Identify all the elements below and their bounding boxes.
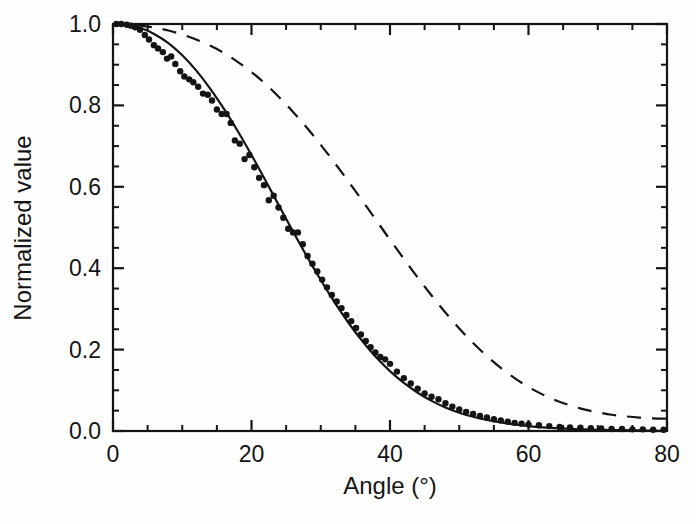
data-point bbox=[387, 361, 393, 367]
data-point bbox=[567, 424, 573, 430]
data-point bbox=[266, 197, 272, 203]
data-point bbox=[442, 400, 448, 406]
y-tick-label: 1.0 bbox=[69, 11, 101, 37]
x-tick-label: 40 bbox=[377, 441, 403, 467]
data-point bbox=[251, 164, 257, 170]
data-point bbox=[546, 423, 552, 429]
data-point bbox=[333, 298, 339, 304]
y-tick-label: 0.0 bbox=[69, 418, 101, 444]
data-point bbox=[525, 421, 531, 427]
data-point bbox=[394, 368, 400, 374]
y-tick-label: 0.8 bbox=[69, 92, 101, 118]
data-point bbox=[435, 396, 441, 402]
data-point bbox=[324, 284, 330, 290]
data-point bbox=[228, 120, 234, 126]
data-point bbox=[160, 49, 166, 55]
data-point bbox=[343, 312, 349, 318]
data-point bbox=[314, 268, 320, 274]
data-point bbox=[177, 68, 183, 74]
data-point bbox=[246, 152, 252, 158]
data-point bbox=[421, 390, 427, 396]
data-point bbox=[491, 416, 497, 422]
data-point bbox=[463, 409, 469, 415]
data-point bbox=[518, 420, 524, 426]
x-tick-label: 80 bbox=[654, 441, 680, 467]
data-point bbox=[619, 426, 625, 432]
data-point bbox=[300, 241, 306, 247]
data-point bbox=[214, 106, 220, 112]
data-point bbox=[146, 36, 152, 42]
x-axis-title: Angle (°) bbox=[343, 472, 437, 499]
data-point bbox=[205, 92, 211, 98]
data-point bbox=[304, 253, 310, 259]
data-point bbox=[348, 318, 354, 324]
x-tick-label: 60 bbox=[516, 441, 542, 467]
data-point bbox=[209, 97, 215, 103]
x-tick-label: 20 bbox=[239, 441, 265, 467]
data-point bbox=[484, 414, 490, 420]
data-point bbox=[456, 406, 462, 412]
y-tick-label: 0.6 bbox=[69, 174, 101, 200]
chart-canvas: 020406080 0.00.20.40.60.81.0 Angle (°) N… bbox=[0, 0, 696, 524]
data-point bbox=[270, 193, 276, 199]
data-point bbox=[401, 375, 407, 381]
data-point bbox=[577, 425, 583, 431]
data-point bbox=[650, 427, 656, 433]
data-point bbox=[256, 175, 262, 181]
y-tick-label: 0.4 bbox=[69, 255, 101, 281]
data-point bbox=[223, 111, 229, 117]
data-point bbox=[118, 21, 124, 27]
data-point bbox=[660, 427, 666, 433]
data-point bbox=[382, 356, 388, 362]
x-tick-labels: 020406080 bbox=[107, 441, 680, 467]
y-axis-title: Normalized value bbox=[9, 135, 36, 320]
data-point bbox=[415, 385, 421, 391]
data-point bbox=[275, 204, 281, 210]
data-point bbox=[629, 426, 635, 432]
data-point bbox=[168, 53, 174, 59]
y-tick-label: 0.2 bbox=[69, 337, 101, 363]
data-point bbox=[498, 417, 504, 423]
data-point bbox=[358, 331, 364, 337]
data-point bbox=[195, 83, 201, 89]
data-point bbox=[511, 420, 517, 426]
figure-container: 020406080 0.00.20.40.60.81.0 Angle (°) N… bbox=[0, 0, 696, 524]
data-point bbox=[237, 140, 243, 146]
data-point bbox=[556, 424, 562, 430]
data-point bbox=[261, 182, 267, 188]
data-point bbox=[367, 344, 373, 350]
data-point bbox=[428, 394, 434, 400]
data-point bbox=[608, 426, 614, 432]
data-point bbox=[329, 292, 335, 298]
data-point bbox=[309, 261, 315, 267]
y-tick-labels: 0.00.20.40.60.81.0 bbox=[69, 11, 101, 444]
data-point bbox=[477, 413, 483, 419]
data-point bbox=[319, 276, 325, 282]
data-point bbox=[408, 380, 414, 386]
data-point bbox=[280, 215, 286, 221]
data-point bbox=[598, 425, 604, 431]
data-point bbox=[449, 403, 455, 409]
data-point bbox=[372, 349, 378, 355]
data-point bbox=[338, 305, 344, 311]
data-point bbox=[137, 27, 143, 33]
data-point bbox=[295, 229, 301, 235]
data-point bbox=[363, 338, 369, 344]
data-point bbox=[536, 422, 542, 428]
data-point bbox=[190, 79, 196, 85]
data-point bbox=[470, 411, 476, 417]
data-point bbox=[505, 418, 511, 424]
data-point bbox=[588, 425, 594, 431]
data-point bbox=[640, 426, 646, 432]
data-point bbox=[172, 61, 178, 67]
x-tick-label: 0 bbox=[107, 441, 120, 467]
data-point bbox=[353, 325, 359, 331]
